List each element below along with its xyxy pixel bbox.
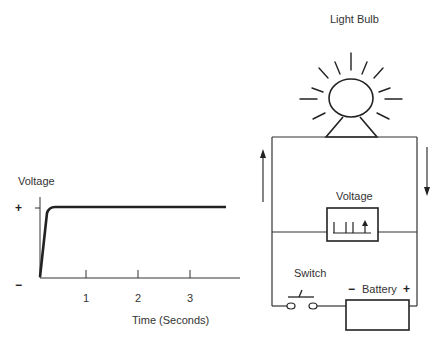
current-arrow-down-icon bbox=[424, 147, 430, 196]
x-tick-label-1: 1 bbox=[83, 292, 89, 304]
x-axis-label: Time (Seconds) bbox=[132, 314, 209, 326]
battery-plus-label: + bbox=[403, 282, 410, 296]
battery-label: Battery bbox=[362, 283, 397, 295]
voltage-curve bbox=[40, 207, 226, 277]
switch-label: Switch bbox=[294, 267, 326, 279]
voltage-time-graph: Voltage + − 1 2 3 Time (Seconds) bbox=[15, 175, 240, 326]
light-bulb-label: Light Bulb bbox=[330, 13, 379, 25]
circuit-diagram: Light Bulb bbox=[260, 13, 430, 330]
battery-minus-label: − bbox=[348, 282, 355, 296]
y-minus-label: − bbox=[15, 278, 22, 292]
battery-icon bbox=[346, 300, 409, 330]
diagram-canvas: Voltage + − 1 2 3 Time (Seconds) Light B… bbox=[0, 0, 439, 339]
bulb-base bbox=[326, 117, 377, 137]
voltage-meter-label: Voltage bbox=[336, 190, 373, 202]
current-arrow-up-icon bbox=[260, 149, 266, 202]
switch-icon bbox=[287, 290, 317, 309]
y-axis-label: Voltage bbox=[18, 175, 55, 187]
y-plus-label: + bbox=[15, 201, 22, 215]
x-tick-label-2: 2 bbox=[135, 292, 141, 304]
x-tick-label-3: 3 bbox=[187, 292, 193, 304]
light-bulb-icon bbox=[329, 79, 373, 117]
